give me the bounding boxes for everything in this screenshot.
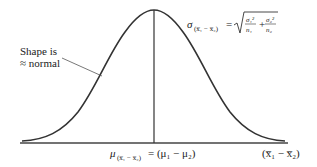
sigma-symbol: σ	[187, 18, 193, 30]
term2-numerator: σ₂²	[266, 16, 275, 24]
shape-leader-line	[62, 58, 102, 76]
term1-denominator: n₁	[246, 26, 252, 34]
term1-numerator: σ₁²	[246, 16, 255, 24]
mu-subscript: (x̅₁ − x̅₂)	[117, 154, 142, 162]
plus-sign: +	[259, 18, 265, 30]
shape-label-line2: ≈ normal	[20, 57, 60, 69]
standard-deviation-formula: σ (x̅₁ − x̅₂) = σ₁² n₁ + σ₂² n₂	[187, 12, 278, 34]
x-axis-label: (x̅₁ − x̅₂)	[262, 147, 300, 160]
mu-symbol: μ	[109, 147, 116, 159]
equals-sign: =	[226, 18, 232, 30]
sampling-distribution-diagram: Shape is ≈ normal σ (x̅₁ − x̅₂) = σ₁² n₁…	[0, 0, 317, 167]
term2-denominator: n₂	[266, 26, 273, 34]
mean-label: μ (x̅₁ − x̅₂) = (μ₁ − μ₂)	[109, 147, 196, 162]
shape-label-line1: Shape is	[20, 45, 57, 57]
mean-rhs: = (μ₁ − μ₂)	[148, 147, 196, 160]
sigma-subscript: (x̅₁ − x̅₂)	[194, 25, 219, 33]
